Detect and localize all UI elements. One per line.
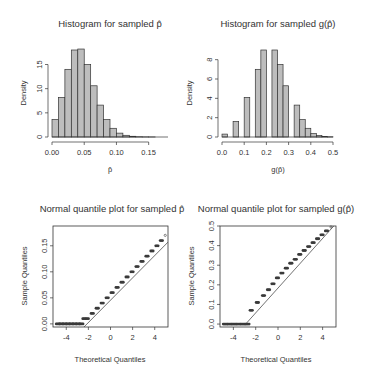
x-axis-label: g(p̂) bbox=[271, 165, 285, 174]
qq-plot-g-p-hat: Normal quantile plot for sampled g(p̂) 0… bbox=[187, 203, 354, 364]
x-axis-label: Theoretical Quantiles bbox=[75, 355, 146, 364]
y-tick-label: 10 bbox=[35, 84, 44, 92]
qq-point bbox=[92, 312, 95, 315]
reference-line bbox=[246, 226, 334, 324]
y-tick-label: 6 bbox=[205, 77, 214, 81]
y-tick-label: 8 bbox=[205, 58, 214, 62]
chart-title: Histogram for sampled p̂ bbox=[58, 18, 161, 29]
reference-line bbox=[84, 242, 168, 327]
plot-area: 0.000.050.100.15-4-2024 bbox=[40, 226, 168, 342]
qq-point bbox=[263, 294, 266, 297]
x-tick-label: 0.1 bbox=[239, 148, 249, 157]
x-tick-label: 4 bbox=[321, 333, 325, 342]
qq-point bbox=[257, 301, 260, 304]
x-tick-label: 0.0 bbox=[217, 148, 227, 157]
qq-point bbox=[112, 291, 115, 294]
qq-point bbox=[317, 237, 320, 240]
qq-point bbox=[286, 267, 289, 270]
x-axis-label: Theoretical Quantiles bbox=[241, 355, 312, 364]
histogram-bar bbox=[300, 120, 306, 137]
qq-point bbox=[97, 307, 100, 310]
x-tick-label: 0.00 bbox=[45, 148, 60, 157]
histogram-bar bbox=[244, 97, 250, 137]
x-tick-label: 0 bbox=[108, 333, 112, 342]
qq-point bbox=[322, 233, 325, 236]
histogram-bar bbox=[78, 49, 84, 137]
qq-point bbox=[152, 250, 155, 253]
histogram-bar bbox=[272, 50, 278, 137]
qq-point bbox=[82, 322, 85, 325]
histogram-bar bbox=[58, 97, 64, 137]
x-tick-label: 4 bbox=[153, 333, 157, 342]
qq-point bbox=[87, 317, 90, 320]
y-tick-label: 0.00 bbox=[40, 317, 49, 332]
x-tick-label: 0.15 bbox=[141, 148, 156, 157]
qq-point bbox=[132, 270, 135, 273]
y-tick-label: 0.1 bbox=[207, 299, 216, 309]
histogram-bar bbox=[305, 128, 311, 137]
qq-point bbox=[147, 255, 150, 258]
qq-point bbox=[137, 265, 140, 268]
histogram-bar bbox=[116, 133, 122, 137]
histogram-bar bbox=[261, 50, 267, 137]
y-tick-label: 0 bbox=[205, 135, 214, 139]
y-tick-label: 15 bbox=[35, 60, 44, 68]
y-tick-label: 0.0 bbox=[207, 319, 216, 329]
histogram-bar bbox=[255, 69, 261, 137]
x-tick-label: 0.10 bbox=[109, 148, 124, 157]
qq-point bbox=[295, 258, 298, 261]
qq-point bbox=[161, 239, 164, 242]
y-tick-label: 0.15 bbox=[40, 238, 49, 253]
qq-point bbox=[248, 323, 251, 326]
qq-point bbox=[273, 282, 276, 285]
x-tick-label: -4 bbox=[63, 333, 70, 342]
y-tick-label: 2 bbox=[205, 116, 214, 120]
histogram-bar bbox=[233, 122, 239, 137]
y-tick-label: 0.3 bbox=[207, 260, 216, 270]
qq-point bbox=[157, 244, 160, 247]
qq-point bbox=[277, 277, 280, 280]
qq-plot-p-hat: Normal quantile plot for sampled p̂ 0.00… bbox=[20, 203, 184, 364]
y-tick-label: 0.2 bbox=[207, 280, 216, 290]
qq-point bbox=[291, 262, 294, 265]
histogram-bar bbox=[294, 105, 300, 137]
histogram-bar bbox=[222, 134, 228, 137]
qq-point bbox=[308, 245, 311, 248]
y-axis-label: Sample Quantiles bbox=[20, 246, 29, 305]
histogram-bar bbox=[283, 86, 289, 137]
qq-point bbox=[102, 302, 105, 305]
y-tick-label: 0.10 bbox=[40, 265, 49, 280]
y-tick-label: 0.5 bbox=[207, 221, 216, 231]
y-tick-label: 0.05 bbox=[40, 291, 49, 306]
x-axis-label: p̂ bbox=[108, 165, 112, 174]
qq-point bbox=[313, 241, 316, 244]
x-tick-label: 0.05 bbox=[77, 148, 92, 157]
x-tick-label: 2 bbox=[131, 333, 135, 342]
histogram-bar bbox=[84, 65, 90, 138]
figure-canvas: Histogram for sampled p̂ 0510150.000.050… bbox=[0, 0, 374, 383]
qq-point bbox=[117, 286, 120, 289]
qq-point bbox=[122, 281, 125, 284]
x-tick-label: 0.2 bbox=[261, 148, 271, 157]
plot-area: 0510150.000.050.100.15 bbox=[35, 49, 168, 157]
histogram-bar bbox=[97, 105, 103, 137]
qq-point bbox=[251, 309, 254, 312]
plot-frame bbox=[53, 226, 168, 327]
y-tick-label: 0 bbox=[35, 135, 44, 139]
histogram-bar bbox=[65, 69, 71, 137]
histogram-p-hat: Histogram for sampled p̂ 0510150.000.050… bbox=[19, 18, 168, 174]
chart-title: Normal quantile plot for sampled g(p̂) bbox=[198, 203, 354, 214]
plot-area: 0.00.10.20.30.40.5-4-2024 bbox=[207, 221, 336, 342]
histogram-bar bbox=[52, 120, 58, 137]
y-tick-label: 0.4 bbox=[207, 240, 216, 250]
histogram-bar bbox=[104, 120, 110, 137]
x-tick-label: 2 bbox=[298, 333, 302, 342]
y-tick-label: 4 bbox=[205, 96, 214, 100]
chart-title: Normal quantile plot for sampled p̂ bbox=[40, 203, 185, 214]
qq-point bbox=[164, 234, 166, 236]
histogram-bar bbox=[311, 134, 317, 137]
qq-point bbox=[326, 230, 329, 233]
qq-point bbox=[107, 296, 110, 299]
qq-point bbox=[127, 276, 130, 279]
y-axis-label: Sample Quantiles bbox=[187, 246, 196, 305]
